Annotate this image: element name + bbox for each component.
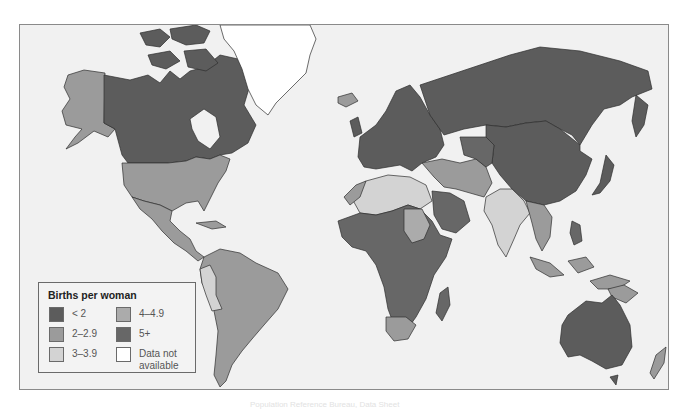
legend-item-na: Data not available xyxy=(116,347,178,371)
legend-label: 4–4.9 xyxy=(139,307,164,320)
legend-item-3-3-9: 3–3.9 xyxy=(49,347,97,362)
legend-label: 5+ xyxy=(139,327,150,340)
legend-label-na: Data not available xyxy=(139,347,178,371)
region-philippines[interactable] xyxy=(570,221,582,245)
legend-label: 2–2.9 xyxy=(72,327,97,340)
region-indonesia[interactable] xyxy=(530,257,630,289)
legend-item-5plus: 5+ xyxy=(116,327,150,342)
legend-label: 3–3.9 xyxy=(72,347,97,360)
legend-swatch-lt2 xyxy=(49,307,64,322)
region-tasmania[interactable] xyxy=(610,375,618,385)
region-uk[interactable] xyxy=(350,117,362,137)
region-southeast-asia[interactable] xyxy=(526,201,552,251)
legend-swatch-3-3-9 xyxy=(49,347,64,362)
region-canada[interactable] xyxy=(104,55,256,163)
legend-label: < 2 xyxy=(72,307,86,320)
region-india[interactable] xyxy=(484,189,530,257)
region-caribbean[interactable] xyxy=(196,221,226,229)
legend-title: Births per woman xyxy=(48,289,137,301)
legend-swatch-2-2-9 xyxy=(49,327,64,342)
legend: Births per woman < 2 2–2.9 3–3.9 4–4.9 5… xyxy=(38,282,196,373)
legend-swatch-na xyxy=(116,347,131,362)
region-arabia[interactable] xyxy=(432,191,470,233)
region-madagascar[interactable] xyxy=(436,287,450,321)
region-sub-saharan-africa[interactable] xyxy=(338,205,452,331)
caption: Population Reference Bureau, Data Sheet xyxy=(250,400,399,409)
region-new-zealand[interactable] xyxy=(650,347,666,379)
map-frame: Births per woman < 2 2–2.9 3–3.9 4–4.9 5… xyxy=(19,24,669,390)
legend-label-line2: available xyxy=(139,360,178,371)
region-japan[interactable] xyxy=(592,155,614,195)
region-south-america[interactable] xyxy=(200,249,288,387)
legend-item-lt2: < 2 xyxy=(49,307,86,322)
legend-swatch-4-4-9 xyxy=(116,307,131,322)
region-australia[interactable] xyxy=(560,295,632,369)
legend-label-line1: Data not xyxy=(139,348,177,359)
legend-item-2-2-9: 2–2.9 xyxy=(49,327,97,342)
region-kamchatka[interactable] xyxy=(632,95,648,137)
region-canada-islands[interactable] xyxy=(140,25,218,71)
region-iceland[interactable] xyxy=(338,93,358,107)
legend-item-4-4-9: 4–4.9 xyxy=(116,307,164,322)
legend-swatch-5plus xyxy=(116,327,131,342)
